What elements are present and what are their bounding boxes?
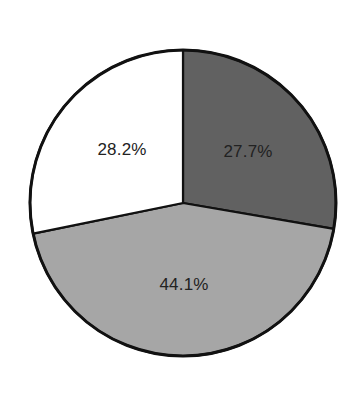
- pie-slices: [30, 50, 336, 356]
- slice-label-gray: 44.1%: [159, 275, 208, 295]
- slice-label-white: 28.2%: [97, 140, 146, 160]
- pie-chart: [0, 0, 361, 401]
- slice-label-dark: 27.7%: [223, 142, 272, 162]
- pie-slice-dark: [183, 50, 336, 229]
